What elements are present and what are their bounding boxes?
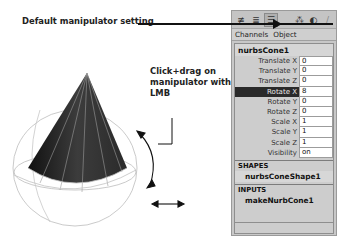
input-node-item[interactable]: makeNurbCone1 <box>235 195 333 206</box>
attr-value-field[interactable]: 0 <box>299 107 333 117</box>
menu-object[interactable]: Object <box>273 30 296 39</box>
rotate-direction-arrow-icon <box>137 131 155 188</box>
attr-row-rotate-y[interactable]: Rotate Y 0 <box>235 97 333 107</box>
attr-row-translate-z[interactable]: Translate Z 0 <box>235 76 333 86</box>
attr-row-visibility[interactable]: Visibility on <box>235 148 333 158</box>
attr-label[interactable]: Rotate Y <box>235 97 299 107</box>
attr-label[interactable]: Translate X <box>235 56 299 66</box>
attr-value-field[interactable]: 0 <box>299 56 333 66</box>
panel-divider <box>235 222 333 223</box>
attr-value-field[interactable]: 1 <box>299 138 333 148</box>
attr-row-scale-z[interactable]: Scale Z 1 <box>235 138 333 148</box>
channel-box-panel: ≢ ≣ ☰ ⁂ ◐ / Channels Object nurbsCone1 T… <box>231 10 337 236</box>
shapes-header: SHAPES <box>235 161 333 171</box>
attr-row-rotate-z[interactable]: Rotate Z 0 <box>235 107 333 117</box>
attr-value-field[interactable]: 0 <box>299 76 333 86</box>
inputs-header: INPUTS <box>235 185 333 195</box>
horizontal-drag-arrow-icon <box>152 201 184 207</box>
callout-default-manipulator: Default manipulator setting <box>22 16 154 27</box>
corner-marker <box>158 118 172 144</box>
attribute-list: Translate X 0 Translate Y 0 Translate Z … <box>235 56 333 158</box>
attr-label[interactable]: Visibility <box>235 148 299 158</box>
callout-arrowhead-icon <box>273 19 282 29</box>
inputs-section: INPUTS makeNurbCone1 <box>235 184 333 206</box>
attr-label[interactable]: Rotate Z <box>235 107 299 117</box>
attr-row-scale-x[interactable]: Scale X 1 <box>235 117 333 127</box>
cone-body <box>28 73 127 183</box>
channel-box-toolbar: ≢ ≣ ☰ ⁂ ◐ / <box>232 11 336 29</box>
attr-row-translate-y[interactable]: Translate Y 0 <box>235 66 333 76</box>
callout-leader-line <box>138 23 333 25</box>
attr-value-field[interactable]: 0 <box>299 97 333 107</box>
shape-node-item[interactable]: nurbsConeShape1 <box>235 171 333 182</box>
channel-box-menubar: Channels Object <box>232 29 336 41</box>
attr-label[interactable]: Rotate X <box>235 87 299 97</box>
shapes-section: SHAPES nurbsConeShape1 <box>235 160 333 182</box>
node-name[interactable]: nurbsCone1 <box>235 44 333 56</box>
attr-value-field[interactable]: 8 <box>299 87 333 97</box>
attr-value-field[interactable]: 1 <box>299 127 333 137</box>
menu-channels[interactable]: Channels <box>235 30 268 39</box>
attr-label[interactable]: Scale Z <box>235 138 299 148</box>
attr-label[interactable]: Scale X <box>235 117 299 127</box>
attr-value-field[interactable]: on <box>299 148 333 158</box>
channel-list: nurbsCone1 Translate X 0 Translate Y 0 T… <box>234 43 334 234</box>
cone-with-rotate-manipulator[interactable] <box>0 50 205 247</box>
attr-row-scale-y[interactable]: Scale Y 1 <box>235 127 333 137</box>
attr-value-field[interactable]: 1 <box>299 117 333 127</box>
attr-row-rotate-x[interactable]: Rotate X 8 <box>235 87 333 97</box>
attr-label[interactable]: Translate Y <box>235 66 299 76</box>
attr-value-field[interactable]: 0 <box>299 66 333 76</box>
viewport-3d[interactable] <box>0 50 205 247</box>
attr-label[interactable]: Scale Y <box>235 127 299 137</box>
attr-label[interactable]: Translate Z <box>235 76 299 86</box>
attr-row-translate-x[interactable]: Translate X 0 <box>235 56 333 66</box>
